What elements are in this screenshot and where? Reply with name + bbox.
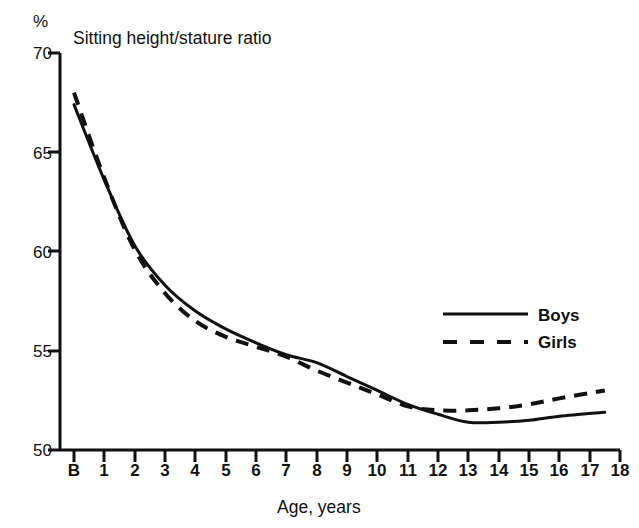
plot-area [0, 0, 639, 528]
series-line-girls [74, 93, 605, 411]
y-axis-ticks [48, 53, 60, 450]
x-axis-ticks [74, 450, 620, 462]
series-line-boys [74, 105, 605, 423]
chart-figure: % Sitting height/stature ratio Age, year… [0, 0, 639, 528]
